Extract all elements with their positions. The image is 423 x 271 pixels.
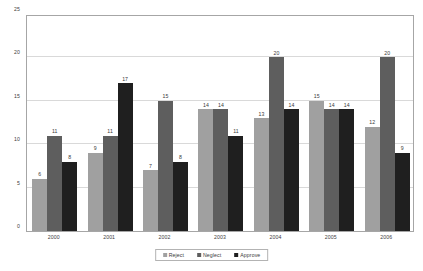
y-tick-label: 15 (14, 93, 20, 99)
x-tick-label: 2004 (269, 234, 281, 240)
bar[interactable] (158, 101, 173, 231)
bar-value-label: 11 (107, 128, 113, 134)
bar-group: 6118 (27, 16, 82, 231)
bar[interactable] (254, 118, 269, 231)
bar-value-label: 20 (273, 50, 279, 56)
bar-value-label: 15 (163, 93, 169, 99)
y-tick-label: 0 (17, 223, 20, 229)
bar-wrap: 20 (380, 16, 395, 231)
legend-label: Approve (240, 252, 260, 258)
bar-chart: 0510152025 61189111771581414111320141514… (0, 0, 423, 271)
bar[interactable] (88, 153, 103, 231)
y-tick-label: 25 (14, 6, 20, 12)
y-tick-label: 20 (14, 49, 20, 55)
bar-value-label: 14 (329, 102, 335, 108)
bar-value-label: 12 (369, 119, 375, 125)
bar-value-label: 15 (314, 93, 320, 99)
bar-wrap: 14 (213, 16, 228, 231)
chart-legend: RejectNeglectApprove (155, 249, 269, 261)
x-tick-label: 2006 (380, 234, 392, 240)
bar[interactable] (365, 127, 380, 231)
bar[interactable] (118, 83, 133, 231)
bar-value-label: 8 (68, 154, 71, 160)
bar-wrap: 20 (269, 16, 284, 231)
legend-item[interactable]: Approve (234, 252, 260, 258)
bar[interactable] (213, 109, 228, 231)
bar-wrap: 14 (339, 16, 354, 231)
bar-group: 151414 (304, 16, 359, 231)
bar-wrap: 13 (254, 16, 269, 231)
bar-value-label: 14 (203, 102, 209, 108)
bar-wrap: 11 (103, 16, 118, 231)
bar-wrap: 11 (47, 16, 62, 231)
bar-wrap: 8 (62, 16, 77, 231)
bar-wrap: 9 (88, 16, 103, 231)
y-tick-label: 5 (17, 180, 20, 186)
bar-value-label: 14 (288, 102, 294, 108)
legend-swatch-icon (163, 253, 167, 257)
bar-group: 141411 (193, 16, 248, 231)
bar-group: 132014 (249, 16, 304, 231)
y-tick-label: 10 (14, 136, 20, 142)
bar-value-label: 14 (344, 102, 350, 108)
bar-value-label: 14 (218, 102, 224, 108)
bar[interactable] (103, 136, 118, 231)
legend-swatch-icon (234, 253, 238, 257)
bar-value-label: 11 (52, 128, 58, 134)
x-axis: 2000200120022003200420052006 (26, 234, 414, 246)
bar-wrap: 8 (173, 16, 188, 231)
bar[interactable] (380, 57, 395, 231)
bar[interactable] (395, 153, 410, 231)
bar-wrap: 14 (284, 16, 299, 231)
bar[interactable] (284, 109, 299, 231)
x-tick-label: 2005 (325, 234, 337, 240)
plot-area: 611891117715814141113201415141412209 (26, 15, 414, 232)
x-tick-label: 2001 (103, 234, 115, 240)
legend-label: Reject (169, 252, 184, 258)
bars-container: 611891117715814141113201415141412209 (27, 16, 413, 231)
bar-wrap: 15 (309, 16, 324, 231)
bar-wrap: 7 (143, 16, 158, 231)
bar-wrap: 11 (228, 16, 243, 231)
bar[interactable] (143, 170, 158, 231)
bar-group: 7158 (138, 16, 193, 231)
bar-value-label: 9 (401, 145, 404, 151)
bar[interactable] (324, 109, 339, 231)
bar[interactable] (269, 57, 284, 231)
legend-swatch-icon (197, 253, 201, 257)
bar-value-label: 17 (122, 76, 128, 82)
bar-group: 91117 (82, 16, 137, 231)
bar[interactable] (228, 136, 243, 231)
bar-wrap: 14 (198, 16, 213, 231)
bar-value-label: 20 (384, 50, 390, 56)
legend-item[interactable]: Neglect (197, 252, 221, 258)
bar-wrap: 15 (158, 16, 173, 231)
bar-wrap: 17 (118, 16, 133, 231)
bar-wrap: 12 (365, 16, 380, 231)
bar-value-label: 13 (258, 111, 264, 117)
bar-value-label: 8 (179, 154, 182, 160)
x-tick-label: 2002 (159, 234, 171, 240)
legend-item[interactable]: Reject (163, 252, 184, 258)
bar[interactable] (198, 109, 213, 231)
x-tick-label: 2003 (214, 234, 226, 240)
y-axis: 0510152025 (0, 15, 24, 232)
bar-wrap: 14 (324, 16, 339, 231)
bar-wrap: 6 (32, 16, 47, 231)
bar-value-label: 11 (233, 128, 239, 134)
bar[interactable] (47, 136, 62, 231)
bar[interactable] (32, 179, 47, 231)
bar-wrap: 9 (395, 16, 410, 231)
bar-group: 12209 (360, 16, 415, 231)
bar[interactable] (339, 109, 354, 231)
bar[interactable] (309, 101, 324, 231)
bar-value-label: 6 (38, 171, 41, 177)
bar-value-label: 9 (94, 145, 97, 151)
bar[interactable] (173, 162, 188, 231)
bar-value-label: 7 (149, 163, 152, 169)
bar[interactable] (62, 162, 77, 231)
legend-label: Neglect (203, 252, 221, 258)
x-tick-label: 2000 (48, 234, 60, 240)
